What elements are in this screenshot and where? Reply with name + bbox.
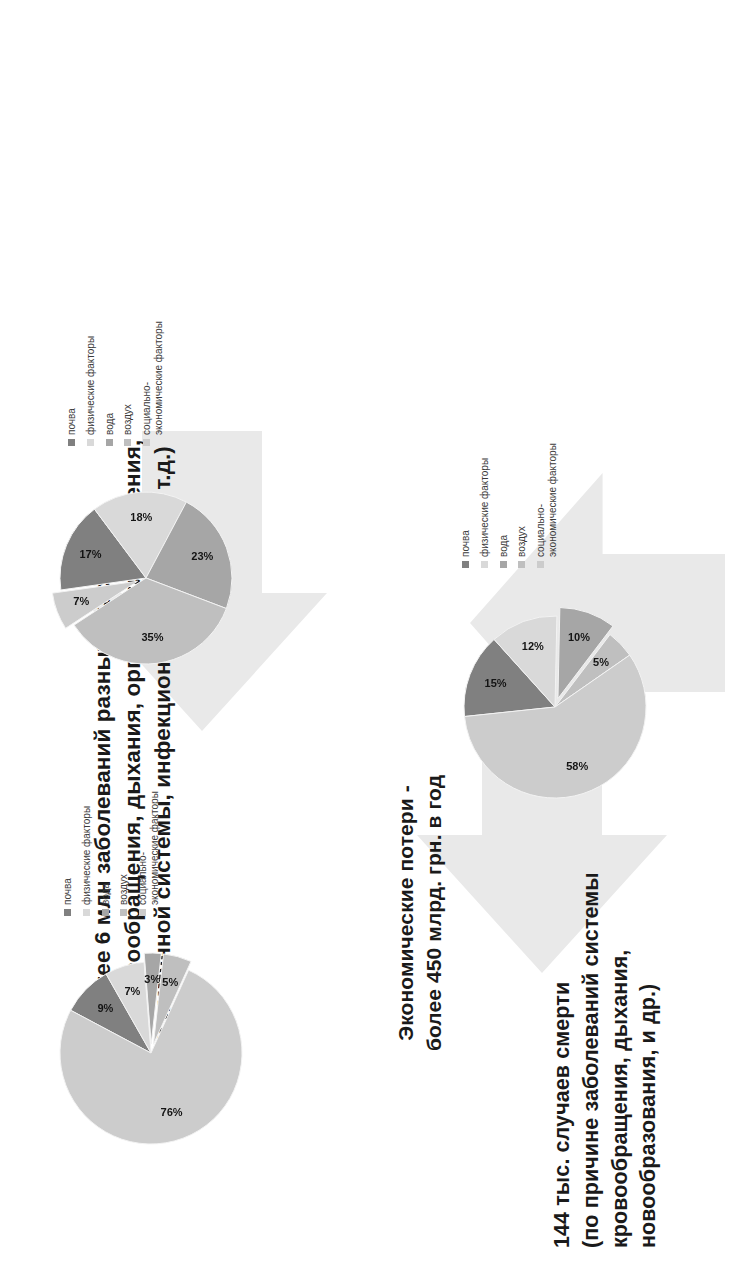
- legend-item-label: социально- экономические факторы: [137, 791, 161, 905]
- legend-item: почва: [66, 266, 78, 446]
- legend-swatch-icon: [87, 439, 94, 446]
- chart-diseases-pie: почвафизические факторыводавоздухсоциаль…: [440, 392, 680, 812]
- legend-swatch-icon: [83, 909, 90, 916]
- legend-item: физические факторы: [85, 266, 97, 446]
- legend-item: воздух: [118, 736, 130, 916]
- legend-item: почва: [62, 736, 74, 916]
- mortality-pie-canvas: [46, 478, 246, 678]
- legend-item-label: физические факторы: [81, 806, 93, 905]
- economic-legend: почвафизические факторыводавоздухсоциаль…: [62, 736, 168, 916]
- chart-mortality-pie: почвафизические факторыводавоздухсоциаль…: [40, 258, 260, 678]
- legend-item: физические факторы: [81, 736, 93, 916]
- legend-swatch-icon: [518, 561, 525, 568]
- legend-swatch-icon: [120, 909, 127, 916]
- legend-swatch-icon: [102, 909, 109, 916]
- legend-swatch-icon: [68, 439, 75, 446]
- economic-pie-canvas: [46, 948, 256, 1158]
- legend-item-label: физические факторы: [479, 458, 491, 557]
- legend-item-label: социально- экономические факторы: [535, 443, 559, 557]
- legend-swatch-icon: [64, 909, 71, 916]
- legend-item-label: вода: [498, 535, 510, 557]
- legend-item: физические факторы: [479, 388, 491, 568]
- legend-item-label: вода: [104, 413, 116, 435]
- legend-swatch-icon: [139, 909, 146, 916]
- legend-swatch-icon: [143, 439, 150, 446]
- legend-item-label: воздух: [122, 404, 134, 435]
- legend-item-label: воздух: [516, 526, 528, 557]
- legend-item-label: почва: [460, 530, 472, 557]
- slide-canvas: Более 6 млн заболеваний разных классов (…: [0, 0, 746, 1278]
- legend-item: воздух: [122, 266, 134, 446]
- legend-item: вода: [104, 266, 116, 446]
- legend-item-label: почва: [62, 878, 74, 905]
- legend-item-label: почва: [66, 408, 78, 435]
- legend-swatch-icon: [124, 439, 131, 446]
- legend-item: вода: [100, 736, 112, 916]
- diseases-pie-canvas: [450, 602, 660, 812]
- legend-swatch-icon: [106, 439, 113, 446]
- legend-swatch-icon: [537, 561, 544, 568]
- legend-item: воздух: [516, 388, 528, 568]
- diseases-legend: почвафизические факторыводавоздухсоциаль…: [460, 388, 566, 568]
- chart-economic-pie: почвафизические факторыводавоздухсоциаль…: [40, 738, 270, 1158]
- legend-item: социально- экономические факторы: [137, 736, 161, 916]
- legend-swatch-icon: [500, 561, 507, 568]
- legend-item-label: воздух: [118, 874, 130, 905]
- economic-line-1: Экономические потери -: [392, 748, 420, 1078]
- legend-item: почва: [460, 388, 472, 568]
- legend-item: социально- экономические факторы: [141, 266, 165, 446]
- legend-item-label: физические факторы: [85, 336, 97, 435]
- legend-item-label: вода: [100, 883, 112, 905]
- legend-item-label: социально- экономические факторы: [141, 321, 165, 435]
- legend-swatch-icon: [462, 561, 469, 568]
- legend-swatch-icon: [481, 561, 488, 568]
- legend-item: вода: [498, 388, 510, 568]
- mortality-legend: почвафизические факторыводавоздухсоциаль…: [66, 266, 172, 446]
- slide-content: Более 6 млн заболеваний разных классов (…: [0, 0, 746, 1278]
- legend-item: социально- экономические факторы: [535, 388, 559, 568]
